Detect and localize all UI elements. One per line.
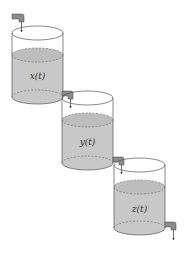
tank-z-label: z(t) <box>131 204 148 214</box>
tank-x-rim <box>12 26 63 40</box>
tank-y: y(t) <box>62 91 113 170</box>
tank-x-label: x(t) <box>30 71 46 81</box>
outflow-tap-icon <box>165 222 176 239</box>
tap-y-to-z-icon <box>113 157 124 173</box>
tank-z-water-surface <box>114 180 165 194</box>
tank-x-water-surface <box>12 48 63 62</box>
tank-x: x(t) <box>12 26 63 104</box>
tank-y-water-surface <box>62 113 113 127</box>
tank-diagram: x(t) y(t) z(t) <box>0 0 186 253</box>
tank-y-label: y(t) <box>79 137 96 147</box>
